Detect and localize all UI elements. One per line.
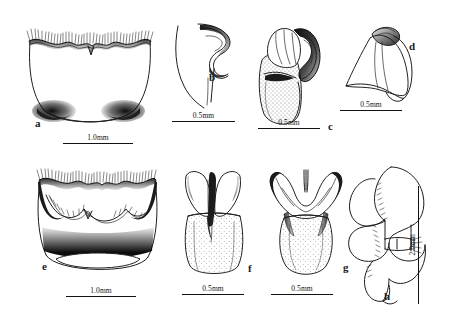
figure-plate: a 1.0mm (0, 0, 451, 330)
panel-a-scale-text: 1.0mm (63, 134, 133, 142)
panel-h-scale-bar (418, 186, 419, 304)
panel-h-scale-text: 2.0mm (409, 234, 417, 256)
panel-c: c (252, 22, 342, 132)
panel-g-scale: 0.5mm (271, 285, 333, 295)
panel-d-scale-bar (340, 110, 402, 111)
panel-c-scale-bar (258, 128, 320, 129)
panel-b-label: b (209, 72, 215, 83)
panel-b: b (170, 22, 250, 117)
panel-d-label: d (409, 41, 415, 52)
panel-a-label: a (35, 118, 41, 129)
panel-e-scale-bar (66, 296, 136, 297)
panel-c-scale-text: 0.5mm (258, 119, 320, 127)
panel-d-scale-text: 0.5mm (340, 101, 402, 109)
panel-g-illustration (262, 168, 350, 280)
panel-f-illustration (178, 170, 256, 280)
panel-c-illustration (252, 22, 342, 132)
panel-b-scale: 0.5mm (172, 112, 235, 122)
panel-g-scale-bar (271, 294, 333, 295)
panel-h-scale: 2.0mm (409, 186, 419, 304)
panel-e: e (26, 165, 171, 285)
panel-f-label: f (248, 263, 252, 274)
panel-f-scale: 0.5mm (182, 285, 244, 295)
panel-a-scale-bar (63, 143, 133, 144)
panel-b-scale-bar (172, 121, 235, 122)
panel-a: a (18, 22, 168, 132)
panel-h-label: h (384, 291, 390, 302)
panel-e-illustration (26, 165, 171, 285)
panel-a-scale: 1.0mm (63, 134, 133, 144)
panel-h-illustration (345, 163, 437, 308)
panel-e-scale: 1.0mm (66, 287, 136, 297)
panel-g: g (262, 168, 350, 280)
panel-f-scale-bar (182, 294, 244, 295)
panel-f-scale-text: 0.5mm (182, 285, 244, 293)
panel-b-scale-text: 0.5mm (172, 112, 235, 120)
panel-f: f (178, 170, 256, 280)
panel-h: h (345, 163, 437, 308)
panel-g-scale-text: 0.5mm (271, 285, 333, 293)
panel-e-label: e (42, 261, 47, 272)
panel-e-scale-text: 1.0mm (66, 287, 136, 295)
panel-c-label: c (328, 121, 333, 132)
panel-b-illustration (170, 22, 250, 117)
panel-d-scale: 0.5mm (340, 101, 402, 111)
panel-c-scale: 0.5mm (258, 119, 320, 129)
